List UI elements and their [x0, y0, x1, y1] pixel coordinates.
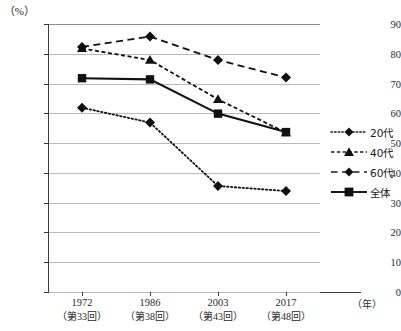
data-point [213, 94, 223, 103]
legend-item-2[interactable]: 60代 [330, 162, 400, 182]
data-point [145, 32, 155, 42]
legend-item-0[interactable]: 20代 [330, 122, 400, 142]
legend-label-2: 60代 [370, 165, 393, 180]
data-point [213, 55, 223, 65]
series-40代 [77, 43, 291, 136]
data-point [281, 73, 291, 83]
legend-item-1[interactable]: 40代 [330, 142, 400, 162]
legend-label-0: 20代 [370, 125, 393, 140]
legend-item-3[interactable]: 全体 [330, 182, 400, 202]
series-line [82, 37, 286, 78]
series-60代 [77, 32, 291, 83]
series-line [82, 78, 286, 132]
legend-swatch-dashed-triangle-icon [330, 145, 368, 159]
data-point [214, 109, 222, 117]
data-point [78, 74, 86, 82]
legend-label-3: 全体 [370, 185, 390, 200]
series-line [82, 48, 286, 132]
data-point [77, 103, 87, 113]
legend-swatch-solid-square-icon [330, 185, 368, 199]
series-20代 [77, 103, 291, 196]
data-point [281, 186, 291, 196]
series-line [82, 108, 286, 191]
legend-label-1: 40代 [370, 145, 393, 160]
legend: 20代 40代 60代 [330, 122, 400, 202]
legend-swatch-dotted-diamond-icon [330, 125, 368, 139]
data-point [282, 128, 290, 136]
line-chart: （%） （年） 0102030405060708090 1972（第33回）19… [0, 0, 401, 331]
series-全体 [78, 74, 290, 136]
legend-swatch-longdash-diamond-icon [330, 165, 368, 179]
data-point [145, 55, 155, 64]
data-point [146, 75, 154, 83]
